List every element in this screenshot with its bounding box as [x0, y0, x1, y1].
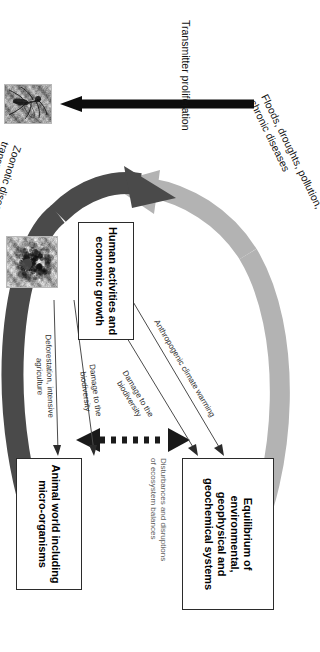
diagram-canvas: Human activities and economic growth Equ… — [0, 0, 310, 652]
straight-arrow-label-transmitter-proliferation: Transmitter proliferation — [179, 20, 192, 160]
node-box-human-activities[interactable]: Human activities and economic growth — [78, 222, 134, 340]
node-label-human-activities: Human activities and economic growth — [93, 223, 119, 339]
edge-label-deforestation: Deforestation, intensive agriculture — [33, 318, 56, 435]
mosquito-photo-thumb — [4, 84, 52, 124]
straight-arrow-transmitter-proliferation — [60, 96, 254, 112]
node-label-animal-world: Animal world including micro-organisms — [36, 463, 62, 585]
node-label-equilibrium: Equilibrium of environmental, geophysica… — [202, 463, 254, 605]
node-box-animal-world[interactable]: Animal world including micro-organisms — [16, 458, 82, 590]
node-box-equilibrium[interactable]: Equilibrium of environmental, geophysica… — [182, 458, 274, 610]
microorganism-photo-thumb — [6, 236, 58, 288]
edge-label-ecosystem-disturbances: Disturbances and disruptions of ecosyste… — [149, 458, 168, 568]
